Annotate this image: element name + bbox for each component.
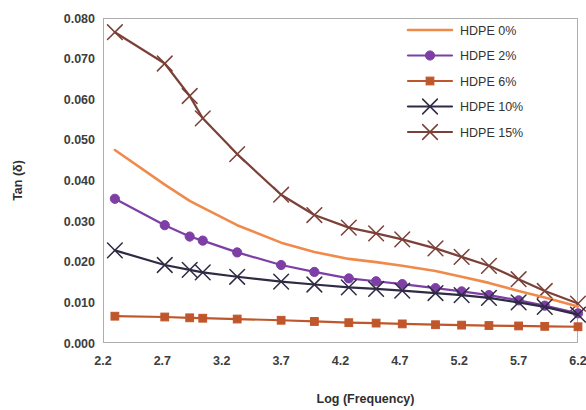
legend-label: HDPE 10% <box>460 100 523 114</box>
legend-label: HDPE 0% <box>460 24 516 38</box>
data-point-marker <box>277 316 285 324</box>
plot-area-background <box>103 18 578 343</box>
y-axis-title: Tan (δ) <box>11 160 25 201</box>
data-point-marker <box>111 312 119 320</box>
x-axis-tick-label: 4.2 <box>332 354 349 368</box>
data-point-marker <box>160 221 169 230</box>
y-axis-tick-label: 0.000 <box>64 337 95 351</box>
data-point-marker <box>233 248 242 257</box>
data-point-marker <box>198 236 207 245</box>
data-point-marker <box>458 321 466 329</box>
legend-label: HDPE 6% <box>460 75 516 89</box>
data-point-marker <box>372 277 381 286</box>
data-point-marker <box>110 194 119 203</box>
legend-item: HDPE 10% <box>408 99 523 114</box>
legend-label: HDPE 2% <box>460 49 516 63</box>
x-axis-tick-label: 3.2 <box>213 354 230 368</box>
x-axis-tick-label: 4.7 <box>391 354 408 368</box>
data-point-marker <box>310 318 318 326</box>
data-point-marker <box>485 322 493 330</box>
data-point-marker <box>515 322 523 330</box>
y-axis-tick-label: 0.010 <box>64 296 95 310</box>
legend-label: HDPE 15% <box>460 126 523 140</box>
x-axis-title: Log (Frequency) <box>317 392 415 406</box>
data-point-marker <box>310 267 319 276</box>
data-point-marker <box>186 314 194 322</box>
data-point-marker <box>199 314 207 322</box>
data-point-marker <box>233 315 241 323</box>
x-axis-tick-label: 5.7 <box>510 354 527 368</box>
x-axis-tick-label: 3.7 <box>272 354 289 368</box>
data-point-marker <box>425 51 434 60</box>
data-point-marker <box>574 323 582 331</box>
data-point-marker <box>432 321 440 329</box>
data-point-marker <box>345 319 353 327</box>
data-point-marker <box>161 313 169 321</box>
y-axis-tick-label: 0.050 <box>64 133 95 147</box>
data-point-marker <box>185 232 194 241</box>
data-point-marker <box>431 284 440 293</box>
data-point-marker <box>372 319 380 327</box>
x-axis-tick-label: 6.2 <box>569 354 586 368</box>
data-point-marker <box>541 322 549 330</box>
data-point-marker <box>277 260 286 269</box>
y-axis-tick-label: 0.080 <box>64 12 95 26</box>
chart-figure: 0.0000.0100.0200.0300.0400.0500.0600.070… <box>0 0 586 410</box>
tan-delta-vs-log-frequency-chart: 0.0000.0100.0200.0300.0400.0500.0600.070… <box>0 0 586 410</box>
y-axis-tick-label: 0.060 <box>64 93 95 107</box>
data-point-marker <box>344 274 353 283</box>
y-axis-tick-label: 0.070 <box>64 52 95 66</box>
y-axis-tick-label: 0.030 <box>64 215 95 229</box>
data-point-marker <box>398 320 406 328</box>
x-axis-tick-label: 5.2 <box>451 354 468 368</box>
data-point-marker <box>426 77 434 85</box>
y-axis-tick-label: 0.040 <box>64 174 95 188</box>
x-axis-tick-label: 2.2 <box>94 354 111 368</box>
legend-item: HDPE 15% <box>408 125 523 140</box>
x-axis-tick-label: 2.7 <box>154 354 171 368</box>
y-axis-tick-label: 0.020 <box>64 255 95 269</box>
